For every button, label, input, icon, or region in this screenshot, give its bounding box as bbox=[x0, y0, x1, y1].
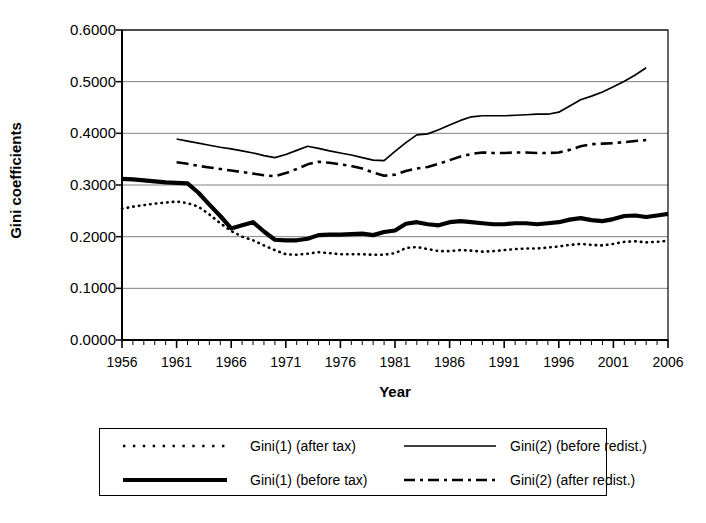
legend-key-3 bbox=[390, 463, 510, 497]
x-tick-label: 2006 bbox=[640, 355, 696, 369]
legend-label-2: Gini(1) (before tax) bbox=[250, 472, 390, 488]
legend-label-3: Gini(2) (after redist.) bbox=[510, 472, 608, 488]
legend-key-2 bbox=[100, 463, 250, 497]
legend-key-0 bbox=[100, 429, 250, 463]
x-axis-title: Year bbox=[122, 383, 668, 400]
x-tick-label: 1981 bbox=[367, 355, 423, 369]
x-tick-label: 1976 bbox=[312, 355, 368, 369]
x-tick-label: 2001 bbox=[585, 355, 641, 369]
x-tick-label: 1961 bbox=[149, 355, 205, 369]
chart-figure: Gini coefficients 0.60000.50000.40000.30… bbox=[0, 0, 706, 523]
legend-label-0: Gini(1) (after tax) bbox=[250, 438, 390, 454]
chart-legend: Gini(1) (after tax) Gini(2) (before redi… bbox=[99, 428, 607, 496]
legend-line-thick-solid bbox=[121, 473, 229, 487]
legend-line-dash-dot bbox=[402, 473, 498, 487]
x-tick-label: 1996 bbox=[531, 355, 587, 369]
x-tick-label: 1971 bbox=[258, 355, 314, 369]
legend-line-thin-solid bbox=[402, 439, 498, 453]
x-tick-label: 1966 bbox=[203, 355, 259, 369]
x-tick-label: 1991 bbox=[476, 355, 532, 369]
series-line-3 bbox=[177, 140, 647, 176]
legend-line-dotted bbox=[121, 439, 229, 453]
series-line-1 bbox=[122, 179, 668, 240]
x-tick-label: 1956 bbox=[94, 355, 150, 369]
legend-key-1 bbox=[390, 429, 510, 463]
legend-label-1: Gini(2) (before redist.) bbox=[510, 438, 608, 454]
x-tick-label: 1986 bbox=[422, 355, 478, 369]
